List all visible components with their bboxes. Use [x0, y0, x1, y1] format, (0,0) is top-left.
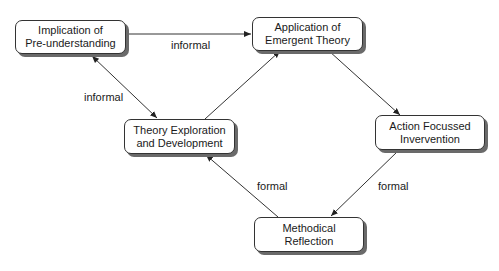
node-label-line-1: Application of: [274, 21, 340, 34]
node-application-of-emergent-theory: Application of Emergent Theory: [252, 17, 363, 51]
edge-application-to-action: [329, 51, 400, 115]
node-implication-of-pre-understanding: Implication of Pre-understanding: [15, 20, 126, 54]
edge-implication-theory-bidirectional: [92, 56, 157, 118]
node-label-line-1: Theory Exploration: [133, 124, 225, 137]
node-label-line-1: Implication of: [38, 24, 103, 37]
node-action-focussed-intervention: Action Focussed Invervention: [375, 115, 485, 150]
node-label-line-2: Emergent Theory: [265, 34, 350, 47]
edge-label-informal-left: informal: [84, 91, 123, 103]
edge-theory-to-application: [205, 51, 280, 119]
edge-label-informal-top: informal: [171, 39, 210, 51]
node-label-line-1: Action Focussed: [389, 120, 470, 133]
node-label-line-2: Invervention: [400, 133, 460, 146]
node-theory-exploration-and-development: Theory Exploration and Development: [124, 119, 235, 154]
node-methodical-reflection: Methodical Reflection: [254, 217, 364, 252]
node-label-line-2: Pre-understanding: [25, 37, 116, 50]
node-label-line-2: and Development: [136, 137, 222, 150]
node-label-line-1: Methodical: [282, 222, 335, 235]
process-diagram: Implication of Pre-understanding Applica…: [0, 0, 499, 271]
edge-label-formal-bottom: formal: [257, 180, 288, 192]
node-label-line-2: Reflection: [285, 235, 334, 248]
edge-label-formal-right: formal: [378, 180, 409, 192]
